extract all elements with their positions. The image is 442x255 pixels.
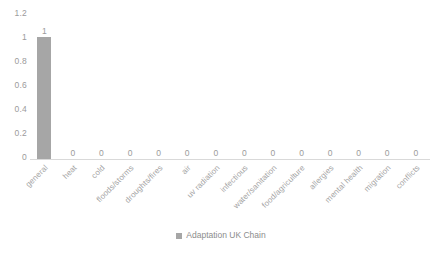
bar-value-label: 0: [116, 149, 145, 158]
bar-value-label: 0: [144, 149, 173, 158]
chart-legend: Adaptation UK Chain: [0, 231, 442, 240]
y-axis-tick: 0.4: [15, 105, 27, 114]
y-axis-tick: 1: [22, 33, 27, 42]
y-axis-tick: 0.6: [15, 81, 27, 90]
x-axis-tick-label: general: [25, 164, 50, 189]
bar-value-label: 0: [201, 149, 230, 158]
bar[interactable]: [37, 37, 51, 159]
bar-chart: 1.2 1 0.8 0.6 0.4 0.2 0 10000000000000 g…: [0, 0, 442, 255]
legend-swatch-icon: [176, 233, 182, 239]
plot-area: 10000000000000: [30, 13, 430, 159]
x-axis-line: [30, 159, 430, 160]
bar-group: 0: [287, 13, 316, 159]
bar-group: 0: [344, 13, 373, 159]
y-axis-tick: 1.2: [15, 9, 27, 18]
y-axis-tick: 0: [22, 153, 27, 162]
bar-group: 0: [59, 13, 88, 159]
bar-value-label: 0: [402, 149, 431, 158]
bar-value-label: 0: [287, 149, 316, 158]
bar-value-label: 0: [230, 149, 259, 158]
x-axis-tick-label: heat: [62, 164, 79, 181]
bar-value-label: 0: [316, 149, 345, 158]
y-axis: 1.2 1 0.8 0.6 0.4 0.2 0: [0, 0, 30, 165]
bar-series: 10000000000000: [30, 13, 430, 159]
bar-group: 0: [201, 13, 230, 159]
x-axis-tick: droughts/fires: [144, 161, 173, 221]
bar-value-label: 0: [259, 149, 288, 158]
bar-value-label: 0: [87, 149, 116, 158]
bar-value-label: 0: [373, 149, 402, 158]
x-axis-tick: migration: [373, 161, 402, 221]
bar-group: 1: [30, 13, 59, 159]
bar-value-label: 0: [344, 149, 373, 158]
bar-group: 0: [144, 13, 173, 159]
x-axis-tick: food/agriculture: [287, 161, 316, 221]
bar-group: 0: [173, 13, 202, 159]
bar-group: 0: [230, 13, 259, 159]
x-axis-tick-label: cold: [91, 164, 107, 180]
bar-group: 0: [87, 13, 116, 159]
bar-group: 0: [402, 13, 431, 159]
bar-group: 0: [316, 13, 345, 159]
x-axis: generalheatcoldfloods/stormsdroughts/fir…: [30, 161, 430, 221]
bar-group: 0: [259, 13, 288, 159]
y-axis-tick: 0.8: [15, 57, 27, 66]
legend-item-label: Adaptation UK Chain: [186, 231, 265, 240]
bar-value-label: 0: [173, 149, 202, 158]
bar-value-label: 0: [59, 149, 88, 158]
bar-group: 0: [116, 13, 145, 159]
y-axis-tick: 0.2: [15, 129, 27, 138]
x-axis-tick: general: [30, 161, 59, 221]
bar-group: 0: [373, 13, 402, 159]
bar-value-label: 1: [30, 27, 59, 36]
x-axis-tick: conflicts: [402, 161, 431, 221]
x-axis-tick-label: air: [181, 164, 193, 176]
x-axis-tick: heat: [59, 161, 88, 221]
